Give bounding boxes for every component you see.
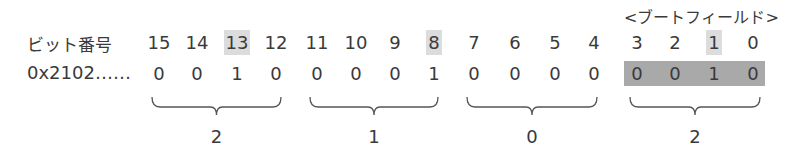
- nibble-hex-value: 1: [354, 126, 394, 147]
- curly-brace-icon: [152, 97, 281, 115]
- curly-brace-icon: [310, 97, 438, 115]
- curly-brace-icon: [630, 97, 760, 115]
- curly-brace-icon: [467, 97, 597, 115]
- nibble-hex-value: 0: [512, 126, 552, 147]
- nibble-hex-value: 2: [197, 126, 237, 147]
- nibble-hex-value: 2: [675, 126, 715, 147]
- nibble-braces: [0, 0, 791, 151]
